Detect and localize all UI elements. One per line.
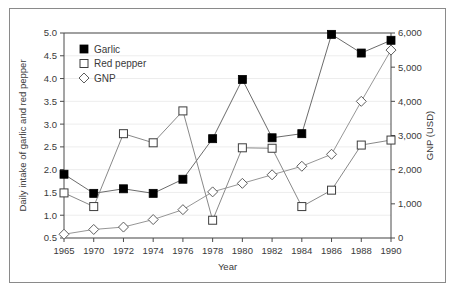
legend-label-garlic: Garlic — [94, 44, 120, 55]
x-axis-tick-label: 1986 — [321, 245, 342, 256]
figure-container: 0.51.01.52.02.53.03.54.04.55.001,0002,00… — [0, 0, 455, 293]
x-axis-tick-label: 1984 — [291, 245, 312, 256]
gnp-marker — [89, 224, 99, 234]
y-axis-right-tick-label: 3,000 — [398, 130, 422, 141]
gnp-marker — [327, 149, 337, 159]
y-axis-right-tick-label: 2,000 — [398, 164, 422, 175]
x-axis-tick-label: 1982 — [262, 245, 283, 256]
garlic-marker — [268, 134, 276, 142]
y-axis-left-tick-label: 3.5 — [44, 96, 57, 107]
x-axis-tick-label: 1970 — [83, 245, 104, 256]
y-axis-left-title: Daily intake of garlic and red pepper — [17, 59, 28, 211]
y-axis-right-tick-label: 1,000 — [398, 198, 422, 209]
y-axis-left-tick-label: 1.0 — [44, 210, 57, 221]
chart-plot-area: 0.51.01.52.02.53.03.54.04.55.001,0002,00… — [0, 0, 455, 293]
gnp-marker — [148, 215, 158, 225]
red-pepper-marker — [60, 189, 68, 197]
y-axis-right-tick-label: 0 — [398, 232, 403, 243]
x-axis-tick-label: 1978 — [202, 245, 223, 256]
y-axis-left-tick-label: 5.0 — [44, 27, 57, 38]
y-axis-left-tick-label: 2.0 — [44, 164, 57, 175]
red-pepper-marker — [149, 139, 157, 147]
garlic-marker — [90, 189, 98, 197]
y-axis-left-tick-label: 0.5 — [44, 232, 57, 243]
x-axis-tick-label: 1988 — [351, 245, 372, 256]
red-pepper-marker — [298, 203, 306, 211]
garlic-marker — [357, 49, 365, 57]
red-pepper-marker — [328, 186, 336, 194]
legend-marker-garlic — [80, 45, 88, 53]
garlic-marker — [387, 36, 395, 44]
line-chart: 0.51.01.52.02.53.03.54.04.55.001,0002,00… — [0, 0, 455, 293]
red-pepper-marker — [179, 107, 187, 115]
garlic-marker — [119, 185, 127, 193]
x-axis-title: Year — [218, 261, 237, 272]
gnp-marker — [386, 45, 396, 55]
legend-marker-gnp — [79, 73, 89, 83]
x-axis-tick-label: 1980 — [232, 245, 253, 256]
garlic-marker — [328, 30, 336, 38]
series-line-red-pepper — [64, 111, 391, 220]
legend-label-red-pepper: Red pepper — [94, 58, 147, 69]
x-axis-tick-label: 1976 — [172, 245, 193, 256]
y-axis-left-tick-label: 2.5 — [44, 141, 57, 152]
legend-marker-red-pepper — [80, 60, 88, 68]
y-axis-left-tick-label: 4.0 — [44, 73, 57, 84]
gnp-marker — [178, 205, 188, 215]
garlic-marker — [60, 170, 68, 178]
gnp-marker — [118, 222, 128, 232]
garlic-marker — [149, 189, 157, 197]
red-pepper-marker — [268, 144, 276, 152]
red-pepper-marker — [209, 216, 217, 224]
garlic-marker — [179, 175, 187, 183]
red-pepper-marker — [357, 141, 365, 149]
red-pepper-marker — [119, 130, 127, 138]
y-axis-right-tick-label: 4,000 — [398, 96, 422, 107]
x-axis-tick-label: 1972 — [113, 245, 134, 256]
x-axis-tick-label: 1990 — [380, 245, 401, 256]
garlic-marker — [209, 135, 217, 143]
red-pepper-marker — [387, 136, 395, 144]
gnp-marker — [356, 96, 366, 106]
garlic-marker — [298, 130, 306, 138]
red-pepper-marker — [238, 144, 246, 152]
y-axis-right-title: GNP (USD) — [424, 111, 435, 160]
gnp-marker — [208, 187, 218, 197]
y-axis-right-tick-label: 5,000 — [398, 62, 422, 73]
y-axis-left-tick-label: 4.5 — [44, 50, 57, 61]
y-axis-left-tick-label: 3.0 — [44, 119, 57, 130]
x-axis-tick-label: 1974 — [143, 245, 164, 256]
legend-label-gnp: GNP — [94, 73, 116, 84]
gnp-marker — [267, 170, 277, 180]
garlic-marker — [238, 75, 246, 83]
red-pepper-marker — [90, 203, 98, 211]
x-axis-tick-label: 1965 — [53, 245, 74, 256]
gnp-marker — [237, 178, 247, 188]
y-axis-left-tick-label: 1.5 — [44, 187, 57, 198]
y-axis-right-tick-label: 6,000 — [398, 27, 422, 38]
